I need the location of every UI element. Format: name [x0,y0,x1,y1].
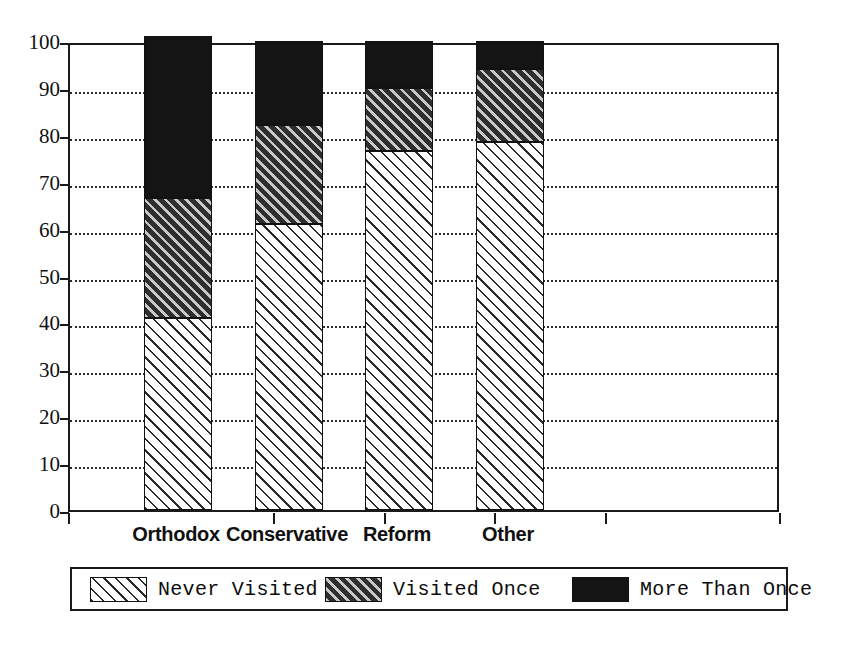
hatch-dark-swatch [325,577,382,602]
x-axis-tick [384,513,386,524]
x-axis-tick [779,513,781,524]
legend-label: More Than Once [640,578,812,601]
legend: Never VisitedVisited OnceMore Than Once [70,567,788,611]
legend-label: Visited Once [393,578,541,601]
legend-item: Never Visited [90,569,318,609]
legend-label: Never Visited [158,578,318,601]
x-axis-label-other: Other [482,523,534,546]
legend-item: More Than Once [572,569,812,609]
x-axis-tick [273,513,275,524]
hatch-light-swatch [90,577,147,602]
solid-black-swatch [572,577,629,602]
x-axis: OrthodoxConservativeReformOther [0,0,847,647]
chart-page: 0102030405060708090100 OrthodoxConservat… [0,0,847,647]
x-axis-label-orthodox: Orthodox [132,523,220,546]
x-axis-tick [494,513,496,524]
x-axis-tick [68,513,70,524]
legend-item: Visited Once [325,569,541,609]
x-axis-label-conservative: Conservative [226,523,348,546]
x-axis-label-reform: Reform [363,523,431,546]
x-axis-tick [605,513,607,524]
